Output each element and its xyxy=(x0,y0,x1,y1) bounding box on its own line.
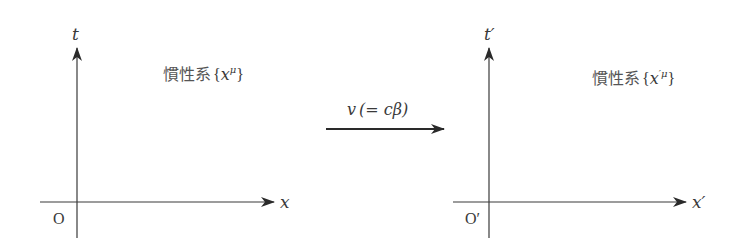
left-time-label: t xyxy=(72,24,79,44)
left-origin-label: O xyxy=(53,210,65,227)
velocity-arrow-group: v(= cβ) xyxy=(326,100,444,129)
right-time-label: t′ xyxy=(484,24,495,44)
left-frame: t x O 慣性系{xμ} xyxy=(40,24,290,238)
right-origin-label: O′ xyxy=(465,210,480,227)
left-space-label: x xyxy=(280,192,290,212)
right-space-label: x′ xyxy=(692,192,706,212)
relativity-frames-diagram: t x O 慣性系{xμ} v(= cβ) t′ x′ O′ 慣性系{x′μ} xyxy=(0,0,737,252)
velocity-label: v(= cβ) xyxy=(347,100,408,119)
left-frame-label: 慣性系{xμ} xyxy=(163,64,244,84)
right-frame-label: 慣性系{x′μ} xyxy=(592,68,675,88)
right-frame: t′ x′ O′ 慣性系{x′μ} xyxy=(453,24,706,238)
